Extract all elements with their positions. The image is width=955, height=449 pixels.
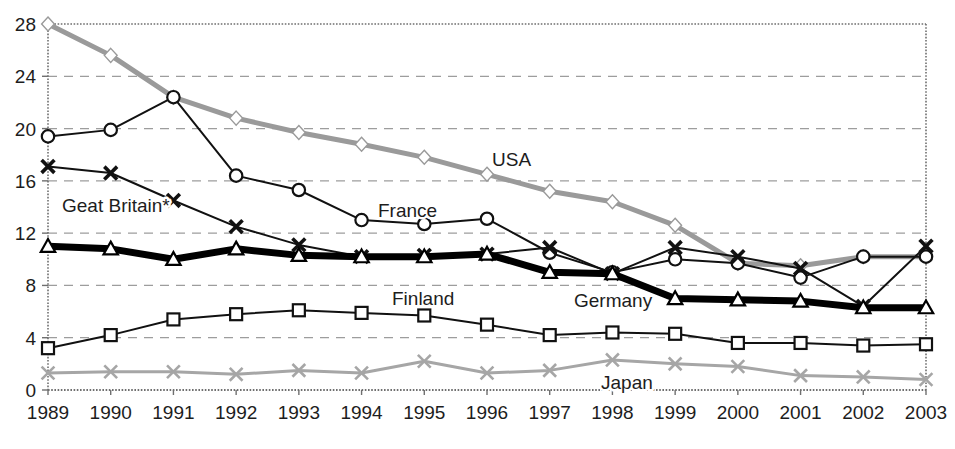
marker-1994 [356,307,368,319]
annotation-germany: Germany [574,290,653,311]
annotation-usa: USA [492,149,531,170]
x-tick-label-2000: 2000 [717,402,759,423]
x-tick-label-1991: 1991 [152,402,194,423]
x-tick-label-2003: 2003 [905,402,947,423]
annotation-france: France [378,200,437,221]
marker-2000 [732,337,744,349]
marker-1994 [355,214,367,226]
marker-1995 [418,309,430,321]
x-tick-label-1992: 1992 [215,402,257,423]
marker-2003 [920,338,932,350]
x-tick-label-1999: 1999 [654,402,696,423]
marker-1999 [669,328,681,340]
y-tick-label-20: 20 [15,119,36,140]
x-tick-label-1995: 1995 [403,402,445,423]
chart-canvas: 0481216202428 19891990199119921993199419… [0,0,955,449]
y-tick-label-4: 4 [25,328,36,349]
x-tick-label-1994: 1994 [340,402,383,423]
y-tick-label-12: 12 [15,223,36,244]
marker-1997 [544,329,556,341]
marker-1998 [606,326,618,338]
marker-1992 [230,169,242,181]
x-tick-label-1997: 1997 [529,402,571,423]
marker-1991 [167,313,179,325]
x-tick-label-1989: 1989 [27,402,69,423]
y-tick-label-24: 24 [15,66,37,87]
y-tick-label-8: 8 [25,275,36,296]
y-tick-label-16: 16 [15,171,36,192]
marker-1990 [105,124,117,136]
marker-1999 [669,253,681,265]
marker-1993 [293,304,305,316]
annotation-japan: Japan [601,372,653,393]
marker-2002 [857,250,869,262]
marker-1992 [230,308,242,320]
plot-background [0,0,955,449]
marker-2001 [795,337,807,349]
marker-1989 [42,130,54,142]
annotation-geat-britain: Geat Britain* [62,195,170,216]
x-tick-label-2001: 2001 [779,402,821,423]
marker-1991 [167,91,179,103]
marker-2002 [857,340,869,352]
marker-1996 [481,213,493,225]
marker-1990 [105,329,117,341]
line-chart: 0481216202428 19891990199119921993199419… [0,0,955,449]
x-tick-label-1990: 1990 [90,402,132,423]
marker-1989 [42,342,54,354]
x-tick-label-1993: 1993 [278,402,320,423]
annotation-finland: Finland [392,288,454,309]
x-tick-label-1996: 1996 [466,402,508,423]
y-tick-label-28: 28 [15,14,36,35]
x-axis-tick-labels: 1989199019911992199319941995199619971998… [27,402,947,423]
x-tick-label-1998: 1998 [591,402,633,423]
marker-1993 [293,184,305,196]
x-tick-label-2002: 2002 [842,402,884,423]
y-tick-label-0: 0 [25,380,36,401]
marker-1996 [481,319,493,331]
